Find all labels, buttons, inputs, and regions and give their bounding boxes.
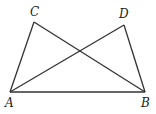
diagram-lines [0,0,156,114]
segment-bd [124,25,145,92]
segment-ad [10,25,124,92]
point-label-a: A [5,97,14,109]
point-label-c: C [30,6,39,18]
point-label-d: D [119,8,129,20]
geometry-diagram: C D A B [0,0,156,114]
point-label-b: B [141,97,150,109]
segment-bc [34,22,145,92]
segment-ac [10,22,34,92]
